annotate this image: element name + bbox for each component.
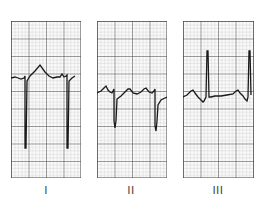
lead-label-iii: III [203, 184, 233, 197]
lead-label-ii: II [116, 184, 146, 197]
ecg-strip-lead-iii [183, 21, 254, 178]
ecg-strip-lead-ii [97, 21, 167, 178]
ecg-panel-lead-iii [183, 21, 254, 178]
ecg-panel-lead-ii [97, 21, 167, 178]
ecg-panel-lead-i [11, 21, 81, 178]
lead-label-i: I [31, 184, 61, 197]
ecg-strip-lead-i [11, 21, 81, 178]
